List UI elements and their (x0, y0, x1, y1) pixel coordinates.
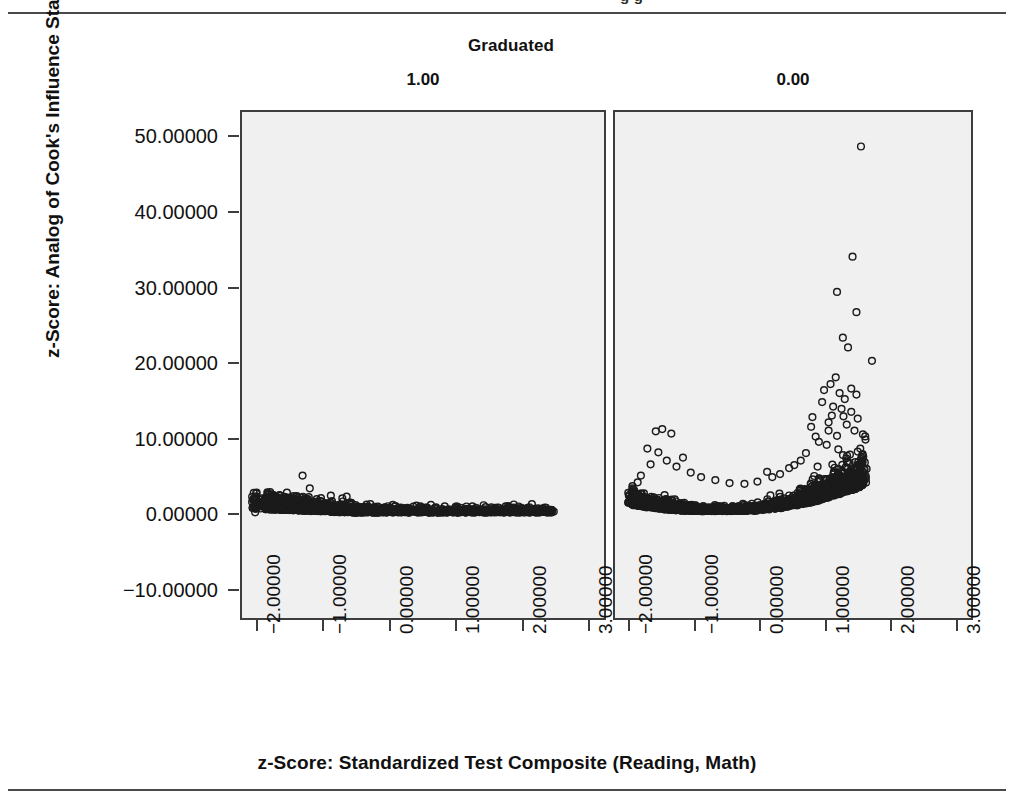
clipped-header-fragment: g g (620, 0, 950, 11)
data-point (808, 423, 815, 430)
x-tick-mark-p0-0 (256, 620, 258, 631)
data-point (841, 396, 848, 403)
x-tick-label-p0-0: −2.00000 (264, 554, 283, 634)
data-point (854, 415, 861, 422)
data-point (663, 457, 670, 464)
x-tick-mark-p0-4 (522, 620, 524, 631)
page-rule-top (8, 12, 1006, 14)
data-point (819, 399, 826, 406)
data-point (849, 253, 856, 260)
y-tick-mark (228, 362, 239, 364)
data-point (786, 465, 793, 472)
data-point (836, 390, 843, 397)
y-tick-mark (228, 513, 239, 515)
panel-group-title: Graduated (0, 36, 1014, 56)
data-point (834, 432, 841, 439)
x-tick-mark-p0-2 (389, 620, 391, 631)
data-point (840, 413, 847, 420)
data-point (843, 421, 850, 428)
x-tick-label-p0-3: 1.00000 (463, 565, 482, 634)
data-point (827, 381, 834, 388)
panel-title-graduated-1: 1.00 (240, 70, 606, 90)
panel-title-graduated-0: 0.00 (613, 70, 973, 90)
x-tick-label-p0-5: 3.00000 (596, 565, 615, 634)
x-tick-label-p0-1: −1.00000 (330, 554, 349, 634)
x-tick-label-p1-4: 2.00000 (898, 565, 917, 634)
data-point (825, 427, 832, 434)
data-point (741, 480, 748, 487)
data-point (680, 454, 687, 461)
data-point (655, 449, 662, 456)
data-point (853, 309, 860, 316)
data-point (823, 441, 830, 448)
data-point (652, 428, 659, 435)
x-tick-mark-p1-2 (759, 620, 761, 631)
y-tick-mark (228, 438, 239, 440)
x-tick-mark-p1-0 (628, 620, 630, 631)
data-point (698, 474, 705, 481)
data-point (851, 427, 858, 434)
data-point (848, 385, 855, 392)
data-point (845, 344, 852, 351)
data-point (644, 445, 651, 452)
y-tick-label: 50.00000 (108, 126, 218, 146)
data-point (668, 430, 675, 437)
data-point (821, 387, 828, 394)
data-point (343, 493, 350, 500)
data-point (848, 408, 855, 415)
data-point (839, 334, 846, 341)
page-rule-bottom (8, 789, 1006, 791)
x-tick-mark-p1-5 (956, 620, 958, 631)
data-point (712, 477, 719, 484)
y-tick-mark (228, 589, 239, 591)
x-tick-mark-p1-3 (825, 620, 827, 631)
panel-group-title-text: Graduated (468, 36, 554, 56)
x-tick-label-p1-2: 0.00000 (767, 565, 786, 634)
data-point (858, 143, 865, 150)
y-tick-label: −10.00000 (108, 580, 218, 600)
x-tick-label-p0-2: 0.00000 (397, 565, 416, 634)
y-axis-label: z-Score: Analog of Cook's Influence Stat… (42, 0, 64, 376)
x-tick-mark-p1-4 (890, 620, 892, 631)
data-point (832, 374, 839, 381)
data-point (812, 433, 819, 440)
x-tick-label-p1-1: −1.00000 (702, 554, 721, 634)
data-point (853, 391, 860, 398)
y-tick-label: 10.00000 (108, 429, 218, 449)
x-tick-label-p1-0: −2.00000 (636, 554, 655, 634)
y-tick-label: 40.00000 (108, 202, 218, 222)
data-point (803, 450, 810, 457)
data-point (809, 414, 816, 421)
x-tick-mark-p0-1 (322, 620, 324, 631)
y-tick-label: 30.00000 (108, 278, 218, 298)
x-tick-mark-p0-3 (455, 620, 457, 631)
data-point (754, 478, 761, 485)
x-tick-label-p1-5: 3.00000 (964, 565, 983, 634)
data-point (834, 289, 841, 296)
plot-panel-graduated-1[interactable] (240, 110, 606, 620)
y-tick-mark (228, 135, 239, 137)
x-tick-mark-p1-1 (694, 620, 696, 631)
data-point (825, 419, 832, 426)
data-point (306, 485, 313, 492)
data-point (638, 472, 645, 479)
data-point (299, 472, 306, 479)
data-point (659, 426, 666, 433)
data-point (830, 403, 837, 410)
scatter-canvas-graduated-1 (242, 112, 604, 618)
y-tick-label: 0.00000 (108, 504, 218, 524)
data-point (814, 463, 821, 470)
data-point (838, 405, 845, 412)
data-point (797, 457, 804, 464)
y-tick-mark (228, 211, 239, 213)
data-point (673, 463, 680, 470)
data-point (687, 469, 694, 476)
data-point (769, 474, 776, 481)
x-axis-label: z-Score: Standardized Test Composite (Re… (0, 752, 1014, 774)
data-point (828, 412, 835, 419)
y-tick-label: 20.00000 (108, 353, 218, 373)
data-point (869, 357, 876, 364)
data-point (835, 446, 842, 453)
data-point (777, 471, 784, 478)
plot-panel-graduated-0[interactable] (613, 110, 973, 620)
